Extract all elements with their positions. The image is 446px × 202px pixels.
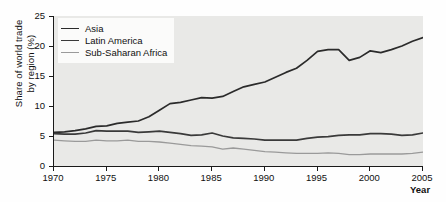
x-tick-mark xyxy=(422,167,423,171)
legend-item: Asia xyxy=(61,22,167,34)
y-tick-label: 10 xyxy=(15,100,45,111)
series-line xyxy=(54,131,423,141)
legend-item: Sub-Saharan Africa xyxy=(61,46,167,58)
y-tick-label: 15 xyxy=(15,70,45,81)
x-tick-mark xyxy=(158,167,159,171)
y-tick-label: 0 xyxy=(15,160,45,171)
legend-label: Latin America xyxy=(85,35,143,46)
chart-legend: AsiaLatin AmericaSub-Saharan Africa xyxy=(58,18,174,63)
x-tick-mark xyxy=(211,167,212,171)
x-tick-mark xyxy=(369,167,370,171)
x-tick-label: 1970 xyxy=(33,172,73,183)
x-tick-label: 1980 xyxy=(138,172,178,183)
legend-item: Latin America xyxy=(61,34,167,46)
legend-label: Sub-Saharan Africa xyxy=(85,47,167,58)
y-tick-label: 5 xyxy=(15,130,45,141)
legend-swatch-icon xyxy=(61,40,79,41)
x-tick-label: 1975 xyxy=(86,172,126,183)
series-line xyxy=(54,140,423,154)
x-tick-mark xyxy=(264,167,265,171)
x-tick-mark xyxy=(53,167,54,171)
x-tick-label: 1985 xyxy=(191,172,231,183)
x-tick-label: 1990 xyxy=(244,172,284,183)
x-tick-mark xyxy=(317,167,318,171)
x-tick-mark xyxy=(106,167,107,171)
y-tick-label: 20 xyxy=(15,40,45,51)
x-tick-label: 2000 xyxy=(349,172,389,183)
legend-swatch-icon xyxy=(61,28,79,29)
line-chart-figure: Share of world trade by region (%) 05101… xyxy=(0,0,446,202)
x-tick-label: 2005 xyxy=(402,172,442,183)
y-tick-label: 25 xyxy=(15,10,45,21)
x-tick-label: 1995 xyxy=(297,172,337,183)
x-axis-title: Year xyxy=(410,184,430,195)
legend-swatch-icon xyxy=(61,52,79,53)
legend-label: Asia xyxy=(85,23,103,34)
